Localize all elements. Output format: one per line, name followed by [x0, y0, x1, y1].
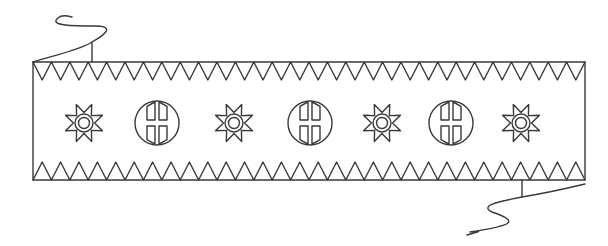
- split-circle-motif: [429, 101, 473, 145]
- motif-row: [66, 101, 540, 145]
- star-motif: [364, 105, 401, 142]
- top-zigzag-border: [33, 62, 585, 80]
- top-left-tail: [33, 16, 107, 62]
- bottom-zigzag-border: [33, 162, 585, 180]
- star-motif: [66, 105, 103, 142]
- star-motif: [503, 105, 540, 142]
- star-motif: [216, 105, 253, 142]
- band-drawing: [0, 0, 608, 246]
- split-circle-motif: [288, 101, 332, 145]
- band-illustration: [0, 0, 608, 246]
- bottom-right-tail: [467, 180, 585, 235]
- split-circle-motif: [135, 101, 179, 145]
